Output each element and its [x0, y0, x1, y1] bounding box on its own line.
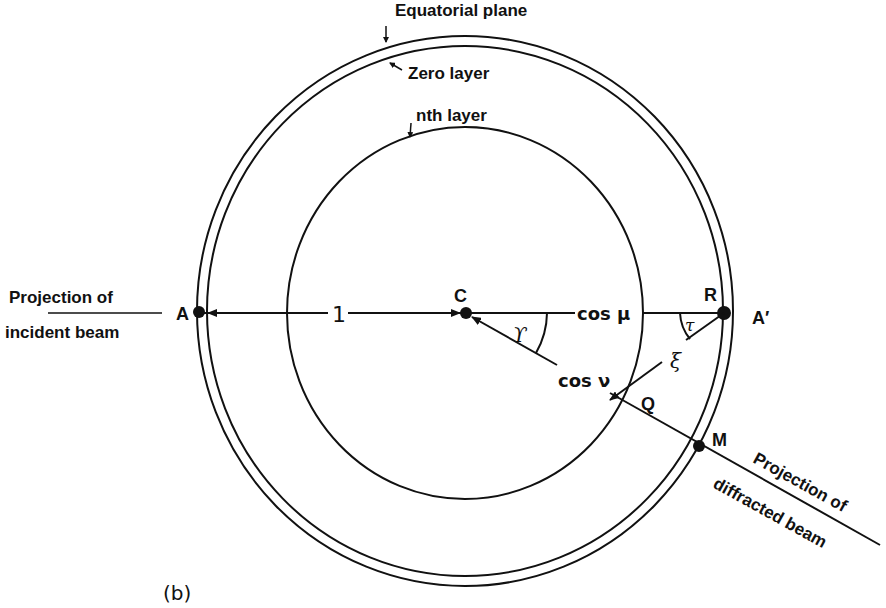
- equatorial-plane-label: Equatorial plane: [395, 1, 527, 20]
- zero-layer-pointer: [390, 63, 402, 70]
- point-a-prime-label: A′: [752, 308, 769, 328]
- panel-label: (b): [163, 581, 191, 605]
- angle-upsilon-arc: [536, 313, 547, 353]
- nth-layer-label: nth layer: [416, 106, 487, 125]
- point-q-label: Q: [641, 394, 655, 414]
- point-a-label: A: [176, 304, 189, 324]
- angle-upsilon-label: ϒ: [513, 323, 528, 347]
- point-r-label: R: [704, 285, 717, 305]
- point-c-label: C: [454, 286, 467, 306]
- ac-length-label: 1: [332, 302, 346, 327]
- point-m-label: M: [712, 430, 727, 450]
- rq-length-label: ξ: [670, 349, 682, 373]
- incident-beam-label-line2: incident beam: [5, 323, 119, 342]
- point-m: [693, 440, 705, 452]
- cr-length-label: cos μ: [577, 303, 630, 324]
- incident-beam-label-line1: Projection of: [9, 288, 113, 307]
- zero-layer-label: Zero layer: [408, 64, 490, 83]
- point-a: [193, 306, 205, 318]
- cq-length-label: cos ν: [558, 370, 610, 391]
- point-c: [460, 307, 472, 319]
- angle-tau-label: τ: [685, 315, 695, 335]
- diffraction-geometry-diagram: Equatorial plane Zero layer nth layer 1 …: [0, 0, 886, 608]
- diffracted-beam-projection-line: [610, 393, 880, 545]
- nth-layer-pointer: [410, 123, 411, 137]
